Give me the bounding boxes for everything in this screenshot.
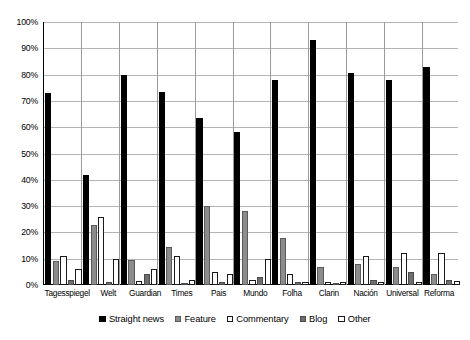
bar-other — [454, 281, 460, 285]
bar-group — [309, 22, 347, 285]
y-axis-tick-label: 100% — [17, 17, 38, 27]
bar-blog — [333, 283, 339, 285]
legend-label: Blog — [309, 314, 327, 324]
bar-feature — [204, 206, 210, 285]
bar-other — [378, 282, 384, 285]
legend-item[interactable]: Feature — [175, 314, 216, 324]
bar-other — [113, 259, 119, 285]
legend-item[interactable]: Blog — [300, 314, 328, 324]
bar-feature — [53, 261, 59, 285]
bar-blog — [257, 277, 263, 285]
x-axis-tick-label: Times — [163, 288, 200, 302]
bar-group — [271, 22, 309, 285]
legend-swatch-feature-icon — [175, 316, 182, 323]
bar-group — [158, 22, 196, 285]
bar-straight — [45, 93, 51, 285]
bar-feature — [166, 247, 172, 285]
x-axis-tick-label: Reforma — [421, 288, 458, 302]
bar-group — [385, 22, 423, 285]
legend-item[interactable]: Other — [338, 314, 370, 324]
bar-commentary — [287, 274, 293, 285]
bar-feature — [355, 264, 361, 285]
bar-other — [340, 282, 346, 285]
bar-blog — [68, 280, 74, 285]
bar-commentary — [438, 253, 444, 285]
legend-swatch-other-icon — [338, 316, 345, 323]
bar-commentary — [136, 281, 142, 285]
y-axis-tick-label: 20% — [21, 227, 38, 237]
x-axis-tick-label: Folha — [274, 288, 311, 302]
bar-blog — [295, 282, 301, 285]
bar-straight — [386, 80, 392, 285]
bar-commentary — [363, 256, 369, 285]
bar-blog — [181, 283, 187, 285]
y-axis-tick-label: 60% — [21, 122, 38, 132]
x-axis-tick-label: Nación — [347, 288, 384, 302]
y-axis-tick-label: 50% — [21, 149, 38, 159]
bar-group — [423, 22, 461, 285]
y-axis-tick-label: 80% — [21, 70, 38, 80]
bar-commentary — [212, 272, 218, 285]
bar-blog — [106, 282, 112, 285]
bar-straight — [423, 67, 429, 285]
bar-group — [347, 22, 385, 285]
bar-commentary — [174, 256, 180, 285]
bar-straight — [159, 92, 165, 285]
bar-commentary — [249, 280, 255, 285]
x-axis-tick-label: Universal — [384, 288, 421, 302]
bar-straight — [196, 118, 202, 285]
bar-other — [189, 280, 195, 285]
y-axis-tick-label: 40% — [21, 175, 38, 185]
y-axis-tick-label: 0% — [26, 280, 38, 290]
bar-commentary — [98, 217, 104, 285]
legend-swatch-commentary-icon — [227, 316, 234, 323]
bar-blog — [144, 274, 150, 285]
bar-other — [227, 274, 233, 285]
bar-blog — [408, 272, 414, 285]
y-axis-tick-label: 90% — [21, 43, 38, 53]
y-axis-tick-label: 30% — [21, 201, 38, 211]
legend-label: Straight news — [109, 314, 164, 324]
x-axis-tick-label: Guardian — [127, 288, 164, 302]
bar-commentary — [401, 253, 407, 285]
bar-group — [234, 22, 272, 285]
bar-group — [120, 22, 158, 285]
bar-other — [75, 269, 81, 285]
bar-feature — [242, 211, 248, 285]
bar-feature — [393, 267, 399, 285]
legend-item[interactable]: Commentary — [227, 314, 289, 324]
bar-straight — [234, 132, 240, 285]
grouped-bar-chart: 0%10%20%30%40%50%60%70%80%90%100% Tagess… — [0, 0, 470, 340]
bar-other — [416, 282, 422, 285]
legend-label: Commentary — [236, 314, 288, 324]
bar-blog — [446, 280, 452, 285]
x-axis-tick-label: Tagesspiegel — [45, 288, 90, 302]
bar-blog — [370, 280, 376, 285]
bar-other — [302, 282, 308, 285]
bar-feature — [128, 260, 134, 285]
bar-straight — [121, 75, 127, 285]
y-axis-tick-label: 10% — [21, 254, 38, 264]
bar-feature — [280, 238, 286, 285]
x-axis-tick-label: Pais — [200, 288, 237, 302]
y-axis: 0%10%20%30%40%50%60%70%80%90%100% — [0, 22, 41, 285]
y-axis-tick-label: 70% — [21, 96, 38, 106]
bar-blog — [219, 282, 225, 285]
legend-swatch-straight-icon — [99, 316, 106, 323]
bar-group — [196, 22, 234, 285]
legend-item[interactable]: Straight news — [99, 314, 164, 324]
bar-feature — [317, 267, 323, 285]
bar-feature — [431, 274, 437, 285]
bar-commentary — [60, 256, 66, 285]
bar-group — [82, 22, 120, 285]
x-axis-tick-label: Clarin — [310, 288, 347, 302]
bar-other — [151, 269, 157, 285]
bar-straight — [272, 80, 278, 285]
bar-other — [265, 259, 271, 285]
legend-label: Feature — [184, 314, 215, 324]
bar-feature — [91, 225, 97, 285]
bar-group — [45, 22, 83, 285]
bar-groups — [45, 22, 458, 285]
bar-straight — [310, 40, 316, 285]
bar-straight — [348, 73, 354, 285]
